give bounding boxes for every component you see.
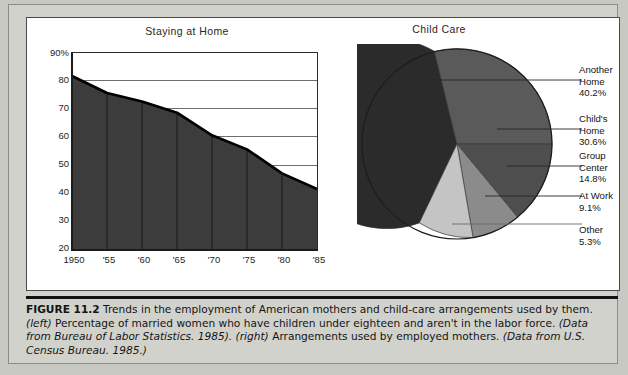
pie-callout-group-center-line2: Center (579, 162, 608, 173)
caption-divider-rule (26, 296, 618, 299)
x-tick-60: '60 (127, 254, 161, 265)
y-tick-50: 50 (29, 158, 69, 169)
pie-callout-childs-home: Child's Home 30.6% (579, 113, 608, 148)
x-tick-85: '85 (302, 254, 336, 265)
pie-chart-title: Child Care (309, 23, 569, 35)
pie-callout-another-home-line1: Another (579, 64, 613, 75)
x-tick-55: '55 (92, 254, 126, 265)
pie-callout-at-work: At Work 9.1% (579, 190, 613, 213)
y-tick-60: 60 (29, 130, 69, 141)
pie-chart-child-care: Child Care (347, 18, 619, 290)
figure-caption-text: FIGURE 11.2 Trends in the employment of … (26, 303, 601, 357)
pie-graphic (357, 44, 589, 256)
area-series-plot (72, 52, 318, 250)
plot-right-border (317, 52, 318, 250)
area-chart-title: Staying at Home (27, 25, 347, 37)
y-axis-line (71, 52, 73, 250)
y-tick-80: 80 (29, 74, 69, 85)
page-frame: Staying at Home 90% 80 70 60 50 40 30 20 (8, 4, 618, 364)
pie-callout-childs-home-pct: 30.6% (579, 136, 608, 148)
pie-callout-group-center: Group Center 14.8% (579, 150, 608, 185)
pie-callout-other-pct: 5.3% (579, 236, 603, 248)
pie-callout-childs-home-line1: Child's (579, 113, 608, 124)
pie-callout-group-center-line1: Group (579, 150, 606, 161)
chart-panel: Staying at Home 90% 80 70 60 50 40 30 20 (26, 17, 620, 291)
plot-top-border (71, 52, 318, 53)
pie-callout-another-home-line2: Home (579, 76, 605, 87)
pie-callout-other-line1: Other (579, 224, 603, 235)
area-fill (72, 76, 317, 249)
pie-callout-another-home: Another Home 40.2% (579, 64, 613, 99)
y-tick-20: 20 (29, 242, 69, 253)
y-tick-90: 90% (29, 47, 69, 58)
x-tick-1950: 1950 (57, 254, 91, 265)
pie-callout-at-work-pct: 9.1% (579, 202, 613, 214)
y-tick-30: 30 (29, 214, 69, 225)
x-tick-80: '80 (267, 254, 301, 265)
area-chart-staying-at-home: Staying at Home 90% 80 70 60 50 40 30 20 (27, 18, 347, 290)
y-tick-70: 70 (29, 102, 69, 113)
x-axis-line (71, 249, 318, 251)
x-tick-65: '65 (162, 254, 196, 265)
y-axis-tick-labels: 90% 80 70 60 50 40 30 20 (27, 18, 69, 290)
figure-root: Staying at Home 90% 80 70 60 50 40 30 20 (0, 0, 628, 375)
x-tick-70: '70 (197, 254, 231, 265)
pie-callout-childs-home-line2: Home (579, 125, 605, 136)
pie-callout-other: Other 5.3% (579, 224, 603, 247)
pie-callout-group-center-pct: 14.8% (579, 173, 608, 185)
x-tick-75: '75 (232, 254, 266, 265)
figure-caption-area: FIGURE 11.2 Trends in the employment of … (26, 296, 618, 362)
y-tick-40: 40 (29, 186, 69, 197)
pie-callout-at-work-line1: At Work (579, 190, 613, 201)
pie-callout-another-home-pct: 40.2% (579, 87, 613, 99)
